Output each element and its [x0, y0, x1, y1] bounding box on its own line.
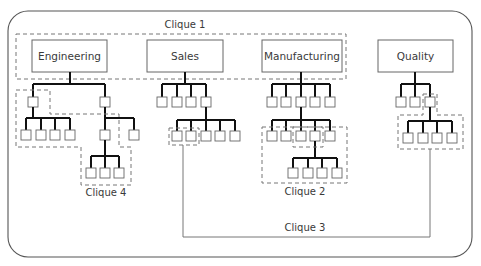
org-node: [186, 97, 196, 107]
org-node: [447, 133, 457, 143]
department-sales: Sales: [147, 40, 223, 72]
org-node: [310, 97, 320, 107]
org-node: [215, 131, 225, 141]
quality-tree: [396, 72, 457, 143]
clique-3-label: Clique 3: [285, 222, 326, 233]
org-node: [325, 97, 335, 107]
department-engineering: Engineering: [32, 40, 107, 72]
org-node: [201, 131, 211, 141]
org-node: [418, 133, 428, 143]
org-node: [317, 168, 327, 178]
org-node: [332, 168, 342, 178]
department-manufacturing-label: Manufacturing: [264, 50, 340, 62]
org-node: [186, 131, 196, 141]
department-sales-label: Sales: [171, 50, 199, 62]
org-node: [396, 97, 406, 107]
org-node: [100, 130, 110, 140]
org-node: [303, 168, 313, 178]
org-node: [310, 131, 320, 141]
org-node: [100, 168, 110, 178]
org-node: [36, 130, 46, 140]
org-node: [281, 131, 291, 141]
org-node: [201, 97, 211, 107]
department-quality-label: Quality: [397, 50, 435, 62]
org-node: [425, 97, 435, 107]
org-node: [28, 97, 38, 107]
org-node: [65, 130, 75, 140]
clique-4-label: Clique 4: [86, 187, 127, 198]
org-node: [432, 133, 442, 143]
org-node: [325, 131, 335, 141]
org-node: [296, 131, 306, 141]
clique-2-label: Clique 2: [285, 186, 326, 197]
org-node: [267, 97, 277, 107]
org-node: [114, 168, 124, 178]
department-engineering-label: Engineering: [38, 50, 101, 62]
org-node: [403, 133, 413, 143]
org-node: [157, 97, 167, 107]
org-node: [230, 131, 240, 141]
org-node: [281, 97, 291, 107]
org-node: [172, 131, 182, 141]
org-node: [100, 97, 110, 107]
org-node: [410, 97, 420, 107]
org-node: [86, 168, 96, 178]
department-quality: Quality: [378, 40, 453, 72]
org-node: [129, 130, 139, 140]
clique-1-label: Clique 1: [165, 19, 206, 30]
org-node: [288, 168, 298, 178]
org-node: [21, 130, 31, 140]
engineering-tree: [21, 72, 139, 178]
org-node: [50, 130, 60, 140]
org-node: [267, 131, 277, 141]
org-node: [172, 97, 182, 107]
org-node: [296, 97, 306, 107]
manufacturing-tree: [267, 72, 342, 178]
department-manufacturing: Manufacturing: [262, 40, 342, 72]
org-clique-diagram: Clique 1 Engineering Sales Manufacturing…: [0, 0, 481, 266]
